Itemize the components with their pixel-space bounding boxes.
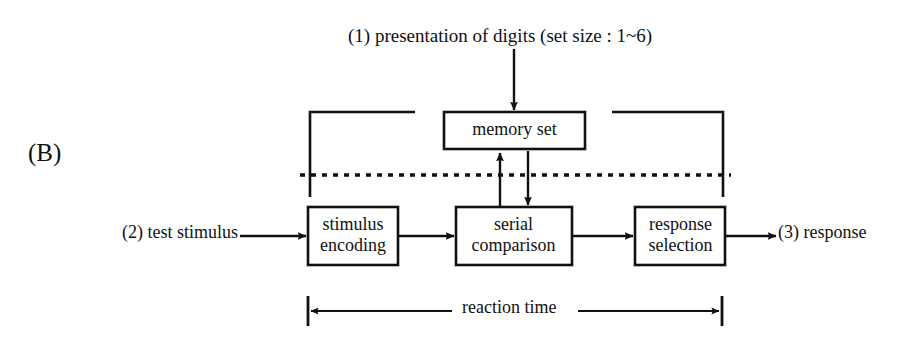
stimulus-encoding-label: stimulus encoding (310, 214, 396, 255)
serial-comparison-line1: serial (456, 214, 571, 235)
presentation-note: (1) presentation of digits (set size : 1… (348, 25, 652, 46)
test-stimulus-note: (2) test stimulus (122, 222, 238, 242)
panel-label: (B) (28, 139, 61, 167)
response-selection-label: response selection (636, 214, 725, 255)
serial-comparison-line2: comparison (456, 235, 571, 256)
figure-canvas: (B) (1) presentation of digits (set size… (0, 0, 899, 355)
stimulus-encoding-line2: encoding (310, 235, 396, 256)
memory-set-label: memory set (444, 119, 585, 140)
response-selection-line2: selection (636, 235, 725, 256)
serial-comparison-label: serial comparison (456, 214, 571, 255)
response-note: (3) response (778, 222, 866, 242)
memory-set-text: memory set (472, 119, 556, 139)
diagram-vector-layer (0, 0, 899, 355)
reaction-time-label: reaction time (455, 297, 563, 317)
stimulus-encoding-line1: stimulus (310, 214, 396, 235)
response-selection-line1: response (636, 214, 725, 235)
